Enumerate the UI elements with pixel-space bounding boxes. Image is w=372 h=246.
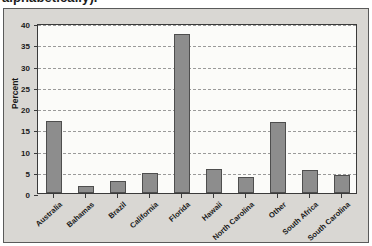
caption-text: alphabetically).: [2, 0, 98, 5]
bar-california: [142, 173, 158, 193]
y-tick-label: 40: [10, 21, 30, 30]
y-tick-label: 15: [10, 127, 30, 136]
bar-brazil: [110, 181, 126, 193]
y-tick-label: 20: [10, 106, 30, 115]
y-tick-label: 25: [10, 84, 30, 93]
plot-area: 0510152025303540: [37, 24, 357, 194]
x-tick-label: Other: [267, 200, 288, 220]
y-tick-label: 5: [10, 169, 30, 178]
y-tick-label: 0: [10, 191, 30, 200]
x-tick-mark: [117, 194, 118, 198]
y-tick-label: 10: [10, 148, 30, 157]
x-tick-mark: [245, 194, 246, 198]
bar-bahamas: [78, 186, 94, 193]
y-tick-label: 30: [10, 63, 30, 72]
bar-hawaii: [206, 169, 222, 193]
x-tick-label: Bahamas: [65, 200, 96, 229]
bars-layer: [38, 25, 356, 193]
bar-north-carolina: [238, 177, 254, 193]
x-tick-label: Brazil: [107, 200, 128, 221]
chart-screenshot: alphabetically). Percent 051015202530354…: [0, 0, 372, 246]
caption-clipped-row: alphabetically).: [0, 0, 372, 8]
x-tick-mark: [181, 194, 182, 198]
x-tick-mark: [53, 194, 54, 198]
bar-other: [270, 122, 286, 193]
x-tick-mark: [213, 194, 214, 198]
y-axis-title: Percent: [10, 78, 20, 109]
x-tick-mark: [85, 194, 86, 198]
x-tick-mark: [277, 194, 278, 198]
y-tick-label: 35: [10, 42, 30, 51]
x-tick-mark: [309, 194, 310, 198]
x-tick-label: Australia: [34, 200, 64, 228]
x-tick-label: California: [128, 200, 160, 230]
bar-florida: [174, 34, 190, 193]
x-tick-mark: [149, 194, 150, 198]
x-tick-label: Hawaii: [200, 200, 224, 223]
y-tick-mark: [34, 195, 38, 196]
bar-south-carolina: [334, 175, 350, 193]
bar-south-africa: [302, 170, 318, 193]
figure-panel: Percent 0510152025303540 AustraliaBahama…: [3, 8, 369, 243]
x-tick-mark: [341, 194, 342, 198]
bar-australia: [46, 121, 62, 193]
x-tick-label: Florida: [167, 200, 192, 224]
